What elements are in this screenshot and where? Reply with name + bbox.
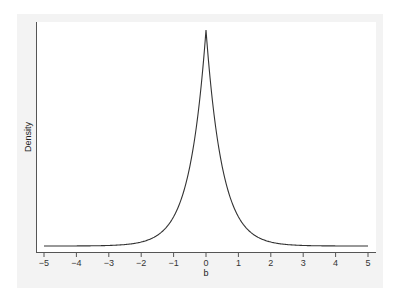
x-tick-label: 5 bbox=[365, 258, 370, 268]
x-tick-label: −2 bbox=[136, 258, 146, 268]
y-axis-label: Density bbox=[23, 121, 33, 152]
x-tick-label: 2 bbox=[268, 258, 273, 268]
density-curve bbox=[44, 30, 368, 246]
x-tick-label: 0 bbox=[203, 258, 208, 268]
x-tick-label: −3 bbox=[104, 258, 114, 268]
x-tick-label: 3 bbox=[301, 258, 306, 268]
x-tick-label: −5 bbox=[39, 258, 49, 268]
x-tick-label: 1 bbox=[236, 258, 241, 268]
x-tick-label: 4 bbox=[333, 258, 338, 268]
x-tick-label: −1 bbox=[168, 258, 178, 268]
x-axis-ticks: −5−4−3−2−1012345 bbox=[39, 252, 371, 268]
chart-svg: −5−4−3−2−1012345 b Density bbox=[0, 0, 400, 302]
x-tick-label: −4 bbox=[71, 258, 81, 268]
x-axis-label: b bbox=[203, 268, 208, 278]
